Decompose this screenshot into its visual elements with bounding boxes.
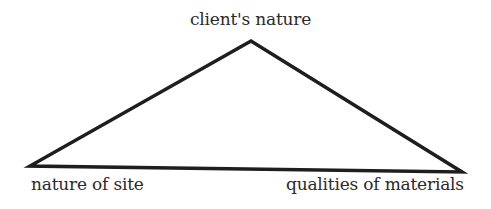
label-nature-of-site: nature of site [31, 174, 144, 194]
triangle-diagram: client's nature nature of site qualities… [0, 0, 491, 209]
triangle-outline [30, 41, 462, 172]
label-qualities-of-materials: qualities of materials [286, 174, 464, 194]
label-clients-nature: client's nature [190, 9, 311, 29]
